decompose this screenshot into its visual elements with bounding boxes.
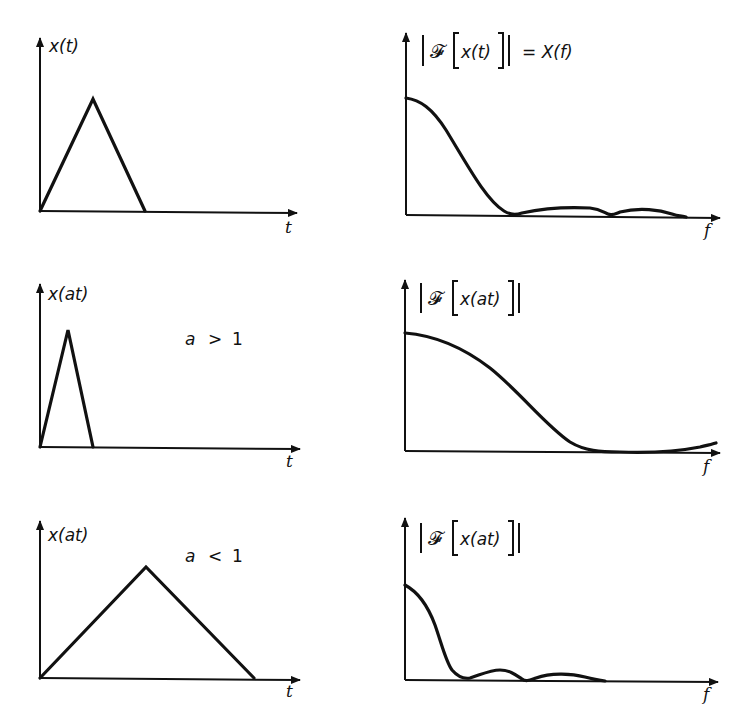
x-axis-label: t bbox=[286, 681, 293, 701]
narrow-triangle-pulse bbox=[40, 330, 93, 447]
fourier-argument: x(at) bbox=[459, 289, 500, 309]
y-axis-label: 𝓕 x(at) bbox=[421, 521, 519, 555]
plot-x-at-stretched: x(at) a < 1 t bbox=[40, 521, 300, 701]
svg-text:a: a bbox=[185, 329, 195, 349]
equals-x-of-f: = X(f) bbox=[522, 42, 573, 62]
fourier-operator-symbol: 𝓕 bbox=[428, 527, 446, 549]
time-scaling-figure: x(t) t 𝓕 x(t) = X(f) f x(at) a > 1 t bbox=[0, 0, 751, 727]
svg-text:1: 1 bbox=[232, 329, 243, 349]
x-axis bbox=[40, 678, 300, 680]
magnitude-spectrum-narrow bbox=[405, 585, 605, 681]
y-axis-label: 𝓕 x(t) = X(f) bbox=[423, 33, 573, 68]
plot-spectrum-x-t: 𝓕 x(t) = X(f) f bbox=[406, 33, 720, 240]
x-axis-label: t bbox=[285, 217, 292, 237]
x-axis-label: f bbox=[702, 220, 713, 240]
fourier-argument: x(t) bbox=[460, 42, 491, 62]
magnitude-spectrum-wide bbox=[405, 333, 716, 452]
x-axis-label: f bbox=[701, 684, 712, 704]
y-axis-label: x(at) bbox=[47, 525, 88, 545]
fourier-operator-symbol: 𝓕 bbox=[430, 40, 448, 62]
x-axis bbox=[40, 447, 300, 449]
triangle-pulse bbox=[40, 99, 145, 211]
plot-x-at-compressed: x(at) a > 1 t bbox=[40, 284, 300, 471]
y-axis-label: x(t) bbox=[48, 36, 79, 56]
magnitude-spectrum bbox=[406, 98, 686, 217]
svg-text:>: > bbox=[208, 329, 222, 349]
wide-triangle-pulse bbox=[40, 567, 254, 678]
y-axis-label: 𝓕 x(at) bbox=[421, 281, 519, 315]
y-axis-label: x(at) bbox=[47, 284, 88, 304]
plot-x-t: x(t) t bbox=[40, 36, 297, 237]
x-axis bbox=[405, 680, 718, 682]
plot-spectrum-x-at-wide: 𝓕 x(at) f bbox=[405, 280, 720, 476]
svg-text:a: a bbox=[185, 546, 195, 566]
x-axis-label: f bbox=[701, 456, 712, 476]
svg-text:1: 1 bbox=[232, 546, 243, 566]
condition-a-less-than-1: a < 1 bbox=[185, 546, 243, 566]
fourier-operator-symbol: 𝓕 bbox=[428, 287, 446, 309]
svg-text:<: < bbox=[208, 546, 222, 566]
fourier-argument: x(at) bbox=[459, 529, 500, 549]
x-axis-label: t bbox=[286, 451, 293, 471]
x-axis bbox=[40, 211, 297, 213]
plot-spectrum-x-at-narrow: 𝓕 x(at) f bbox=[405, 518, 718, 704]
condition-a-greater-than-1: a > 1 bbox=[185, 329, 243, 349]
